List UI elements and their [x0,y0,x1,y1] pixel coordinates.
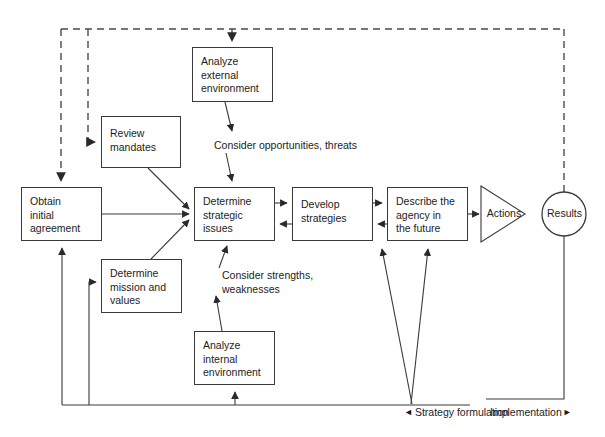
node-determine-mission-and-values[interactable]: Determine mission and values [101,259,182,313]
dashed-to-review-mandates [88,29,95,142]
phase-label-implementation: Implementation► [490,406,572,420]
implementation-text: Implementation [490,406,562,418]
strategy-formulation-arrow-icon: ◄ [404,407,413,417]
edge-mandates-to-issues [148,168,189,209]
edge-mission-to-issues [151,220,189,259]
strategy-change-cycle-diagram: Analyze external environment Review mand… [0,0,605,437]
node-develop-strategies[interactable]: Develop strategies [292,187,373,241]
edge-implementation-to-describe [411,249,428,404]
edge-internal-to-label [216,296,222,331]
node-analyze-internal-environment[interactable]: Analyze internal environment [194,331,275,385]
edge-label-consider-opportunities-threats: Consider opportunities, threats [214,139,357,153]
edge-label-to-issues-2 [219,246,227,268]
node-describe-agency-in-the-future[interactable]: Describe the agency in the future [387,187,468,241]
edge-external-to-label [225,102,232,131]
node-determine-strategic-issues[interactable]: Determine strategic issues [194,187,275,241]
node-obtain-initial-agreement[interactable]: Obtain initial agreement [21,187,102,241]
edge-label-consider-strengths-weaknesses: Consider strengths, weaknesses [222,269,313,296]
return-rail-to-mission [89,282,96,405]
edge-label-to-issues [226,153,232,181]
implementation-rail [486,236,564,399]
node-results-label[interactable]: Results [543,207,586,221]
implementation-arrow-icon: ► [563,407,572,417]
edge-implementation-to-strategies [382,249,412,404]
node-analyze-external-environment[interactable]: Analyze external environment [192,47,273,102]
node-actions-label[interactable]: Actions [483,207,525,221]
node-review-mandates[interactable]: Review mandates [101,116,181,168]
